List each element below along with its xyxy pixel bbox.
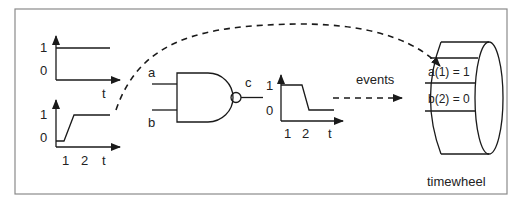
x-label-t: t — [102, 153, 106, 168]
input-label-a: a — [148, 65, 156, 80]
y-label-1: 1 — [266, 78, 273, 93]
y-label-0: 0 — [266, 103, 273, 118]
timewheel-label: timewheel — [427, 174, 486, 189]
x-label-t: t — [102, 86, 106, 101]
y-label-0: 0 — [40, 63, 47, 78]
x-tick-2: 2 — [81, 153, 88, 168]
timewheel-slot-1: a(1) = 1 — [428, 65, 470, 79]
x-tick-1: 1 — [284, 126, 291, 141]
x-tick-2: 2 — [302, 126, 309, 141]
timewheel-slot-2: b(2) = 0 — [428, 92, 470, 106]
x-tick-1: 1 — [62, 153, 69, 168]
events-label: events — [356, 72, 395, 87]
y-label-0: 0 — [40, 130, 47, 145]
output-label-c: c — [245, 75, 252, 90]
y-label-1: 1 — [40, 107, 47, 122]
y-label-1: 1 — [40, 40, 47, 55]
diagram-canvas: 1 0 t 1 0 1 2 t a b c 1 0 1 2 t even — [0, 0, 532, 206]
input-label-b: b — [148, 115, 155, 130]
x-label-t: t — [328, 126, 332, 141]
